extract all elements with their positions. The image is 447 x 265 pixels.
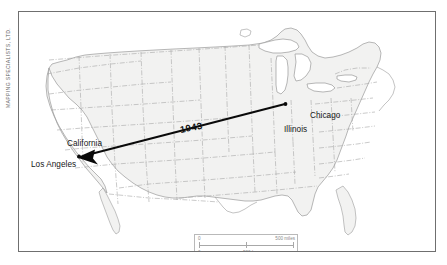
state-label-illinois: Illinois — [284, 125, 307, 134]
scale-km-zero: 0 — [198, 250, 201, 253]
northeast-coast-detail — [377, 67, 395, 111]
origin-dot-chicago — [284, 102, 288, 106]
lake-superior — [259, 39, 299, 53]
publisher-credit-text: MAPPING SPECIALISTS, LTD. — [5, 28, 11, 108]
florida-peninsula — [336, 186, 356, 235]
scale-miles-value: 500 miles — [275, 236, 295, 241]
destination-dot-los-angeles — [77, 155, 81, 159]
scale-km-value: 500 km — [243, 250, 258, 253]
lake-of-the-woods — [240, 29, 251, 37]
scale-miles-zero: 0 — [198, 236, 201, 241]
land-mass-group — [46, 28, 395, 235]
state-label-california: California — [67, 139, 102, 148]
map-frame: Chicago Illinois California Los Angeles … — [18, 11, 436, 252]
map-figure: MAPPING SPECIALISTS, LTD. — [0, 0, 447, 265]
publisher-credit: MAPPING SPECIALISTS, LTD. — [1, 8, 15, 128]
baja-peninsula — [99, 188, 120, 234]
state-border — [81, 108, 83, 162]
scale-miles-tick-end — [293, 242, 294, 248]
city-label-los-angeles: Los Angeles — [31, 160, 76, 169]
map-graphic — [19, 12, 435, 251]
scale-miles-tick-mid — [246, 242, 247, 248]
scale-row-miles: 0 500 miles — [195, 235, 299, 249]
scale-miles-tick-start — [199, 242, 200, 248]
city-label-chicago: Chicago — [310, 111, 340, 120]
scale-bar: 0 500 miles 0 500 km — [194, 234, 298, 252]
scale-row-km: 0 500 km — [195, 249, 299, 252]
